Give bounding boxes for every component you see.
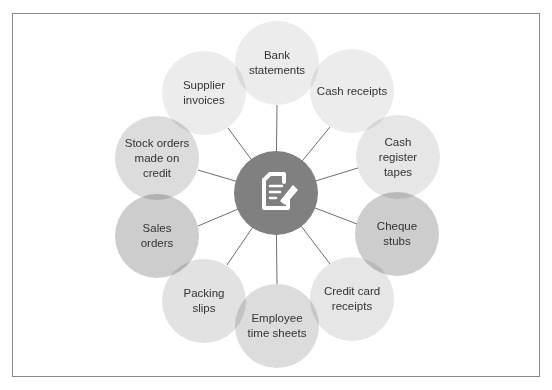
label-employee-time-sheets: Employee time sheets: [242, 311, 312, 341]
label-cheque-stubs: Cheque stubs: [367, 219, 427, 249]
label-supplier-invoices: Supplier invoices: [174, 78, 234, 108]
label-sales-orders: Sales orders: [127, 221, 187, 251]
label-credit-card-receipts: Credit card receipts: [317, 284, 387, 314]
label-stock-orders: Stock orders made on credit: [119, 136, 195, 181]
label-cash-register-tapes: Cash register tapes: [368, 135, 428, 180]
label-cash-receipts: Cash receipts: [312, 84, 392, 99]
label-bank-statements: Bank statements: [237, 48, 317, 78]
label-packing-slips: Packing slips: [174, 286, 234, 316]
